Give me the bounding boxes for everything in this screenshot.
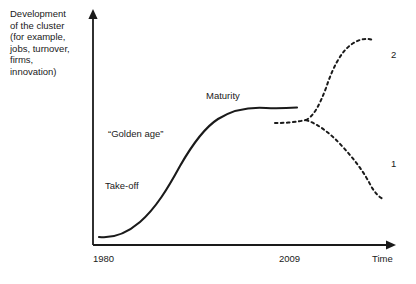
x-axis-label: Time (372, 253, 393, 265)
cluster-life-cycle-figure: Development of the cluster (for example,… (0, 0, 416, 284)
arrow-right-icon (386, 240, 396, 249)
branch-stem-dashed (275, 120, 306, 123)
annotation-maturity: Maturity (206, 90, 240, 102)
scenario-2-dashed-curve (306, 39, 373, 120)
cluster-lifecycle-solid-curve (99, 108, 297, 238)
x-tick-label-1980: 1980 (93, 253, 114, 265)
scenario-1-dashed-curve (306, 120, 383, 199)
y-axis-label: Development of the cluster (for example,… (10, 8, 94, 78)
annotation-take-off: Take-off (105, 180, 139, 192)
scenario-1-label: 1 (391, 158, 396, 170)
x-tick-label-2009: 2009 (279, 253, 300, 265)
annotation-golden-age: “Golden age” (108, 128, 163, 140)
scenario-2-label: 2 (391, 49, 396, 61)
